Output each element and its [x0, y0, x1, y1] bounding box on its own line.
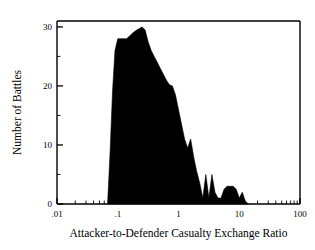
y-tick-label: 10: [43, 140, 53, 150]
y-tick-label: 0: [48, 199, 53, 209]
y-axis-tick-labels: 0102030: [43, 22, 53, 209]
x-tick-label: 1: [176, 209, 181, 219]
x-tick-label: 10: [235, 209, 245, 219]
y-tick-label: 30: [43, 22, 53, 32]
x-axis-title: Attacker-to-Defender Casualty Exchange R…: [70, 227, 288, 240]
y-tick-label: 20: [43, 81, 53, 91]
x-axis-tick-labels: .01.1110100: [51, 209, 307, 219]
x-tick-label: 100: [293, 209, 307, 219]
y-axis-title: Number of Battles: [11, 69, 23, 154]
x-tick-label: .1: [114, 209, 121, 219]
histogram-chart: .01.1110100 0102030 Attacker-to-Defender…: [0, 0, 315, 250]
x-tick-label: .01: [51, 209, 62, 219]
chart-figure: .01.1110100 0102030 Attacker-to-Defender…: [0, 0, 315, 250]
